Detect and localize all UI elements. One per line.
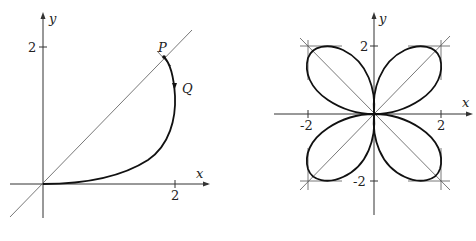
- right-x-tick-label-neg2: -2: [300, 118, 313, 133]
- left-y-label: y: [48, 11, 57, 26]
- point-p-label: P: [157, 40, 167, 55]
- left-x-axis-arrow-icon: [203, 182, 210, 187]
- left-direction-arrow-icon: [172, 83, 177, 90]
- left-curve: [43, 57, 175, 184]
- petal-top-left: [307, 46, 374, 114]
- right-x-label: x: [462, 95, 470, 110]
- right-x-tick-label-2: 2: [437, 118, 445, 133]
- right-y-axis-arrow-icon: [372, 12, 377, 19]
- right-plot: y x 2 -2 2 -2: [274, 11, 473, 215]
- right-x-axis-arrow-icon: [466, 112, 473, 117]
- left-y-tick-label: 2: [28, 40, 36, 55]
- figure-canvas: y 2 x 2 P Q: [0, 0, 476, 241]
- left-plot: y 2 x 2 P Q: [10, 11, 210, 218]
- point-q-label: Q: [182, 81, 193, 96]
- right-y-label: y: [378, 11, 387, 26]
- right-y-tick-label-2: 2: [360, 39, 368, 54]
- left-x-tick-label: 2: [171, 188, 179, 203]
- left-point-p: [162, 55, 166, 59]
- left-x-label: x: [196, 166, 204, 181]
- left-y-axis-arrow-icon: [41, 12, 46, 19]
- right-y-tick-label-neg2: -2: [353, 174, 366, 189]
